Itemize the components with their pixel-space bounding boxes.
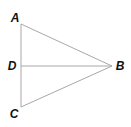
label-a: A [10,11,20,25]
diagram-svg: A B C D [0,0,131,127]
label-c: C [10,107,19,121]
segment-ab [21,24,112,66]
triangle-diagram: A B C D [0,0,131,127]
segment-bc [21,66,112,107]
label-b: B [116,59,125,73]
label-d: D [8,59,17,73]
